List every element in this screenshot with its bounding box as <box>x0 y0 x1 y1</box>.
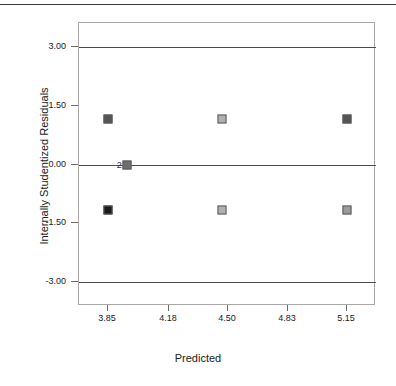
data-point-marker[interactable] <box>342 115 351 124</box>
x-axis-tick-label: 3.85 <box>98 314 116 323</box>
data-point-marker[interactable] <box>342 205 351 214</box>
data-point-marker[interactable] <box>218 115 227 124</box>
x-axis-tick-label: 5.15 <box>337 314 355 323</box>
x-axis-tick-label: 4.83 <box>278 314 296 323</box>
x-axis-tick <box>227 305 228 311</box>
x-axis-tick <box>168 305 169 311</box>
y-axis-tick-label: 1.50 <box>48 101 66 110</box>
lower-limit-line <box>79 282 376 283</box>
x-axis-tick <box>287 305 288 311</box>
chart-canvas: 2 3.001.500.00-1.50-3.00 3.854.184.504.8… <box>0 0 396 386</box>
plot-area-frame: 2 <box>78 22 375 305</box>
x-axis-tick <box>346 305 347 311</box>
y-axis-tick <box>71 281 78 282</box>
x-axis-tick-label: 4.50 <box>218 314 236 323</box>
y-axis-tick <box>71 105 78 106</box>
top-divider-rule <box>0 4 396 5</box>
y-axis-title: Internally Studentized Residuals <box>38 26 50 306</box>
x-axis-title: Predicted <box>0 352 396 364</box>
y-axis-tick-label: 0.00 <box>48 160 66 169</box>
x-axis-tick-label: 4.18 <box>159 314 177 323</box>
x-axis-tick <box>107 305 108 311</box>
data-point-marker[interactable] <box>218 205 227 214</box>
data-point-label: 2 <box>117 160 122 169</box>
upper-limit-line <box>79 47 376 48</box>
y-axis-tick <box>71 164 78 165</box>
data-point-marker[interactable] <box>122 160 131 169</box>
y-axis-tick <box>71 46 78 47</box>
data-point-marker[interactable] <box>104 115 113 124</box>
data-point-marker[interactable] <box>104 205 113 214</box>
y-axis-tick <box>71 222 78 223</box>
y-axis-tick-label: 3.00 <box>48 42 66 51</box>
